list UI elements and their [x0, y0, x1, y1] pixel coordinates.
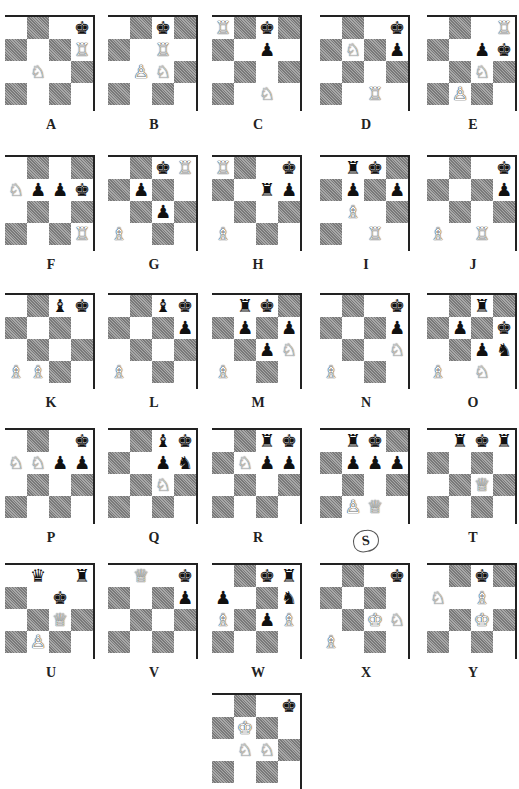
- diagram-label: L: [108, 395, 200, 411]
- board-square: [364, 361, 386, 383]
- board-square: [449, 609, 471, 631]
- board-square: ♟: [256, 452, 278, 474]
- board-square: ♞: [278, 587, 300, 609]
- board-square: [471, 83, 493, 105]
- black-king-icon: ♚: [52, 589, 68, 607]
- chess-diagram-c: ♖♚♟♘C: [212, 15, 304, 133]
- board-square: [174, 61, 196, 83]
- board-square: [152, 609, 174, 631]
- board-square: [449, 496, 471, 518]
- board-square: ♜: [493, 430, 515, 452]
- board-square: [130, 587, 152, 609]
- diagram-label: W: [212, 665, 304, 681]
- diagram-label-text: G: [149, 257, 160, 272]
- board-square: [152, 83, 174, 105]
- board-square: ♟: [256, 39, 278, 61]
- board-square: [27, 223, 49, 245]
- board-square: [278, 474, 300, 496]
- board-square: ♘: [234, 452, 256, 474]
- board-square: [130, 223, 152, 245]
- white-knight-icon: ♘: [259, 741, 275, 759]
- board-square: [256, 474, 278, 496]
- white-knight-icon: ♘: [345, 41, 361, 59]
- white-rook-icon: ♖: [474, 225, 490, 243]
- board-square: ♚: [71, 430, 93, 452]
- board-square: [212, 761, 234, 783]
- board-square: [427, 430, 449, 452]
- board-square: [278, 761, 300, 783]
- white-bishop-icon: ♗: [430, 225, 446, 243]
- chess-board: ♖♚♟♘: [212, 15, 302, 105]
- board-square: [5, 587, 27, 609]
- black-king-icon: ♚: [496, 41, 512, 59]
- chess-diagram-x: ♚♔♘♗X: [320, 563, 412, 681]
- board-square: [130, 295, 152, 317]
- board-square: [49, 83, 71, 105]
- board-square: [130, 474, 152, 496]
- board-square: ♟: [256, 609, 278, 631]
- white-pawn-icon: ♙: [133, 63, 149, 81]
- board-square: [71, 474, 93, 496]
- board-square: [320, 452, 342, 474]
- black-rook-icon: ♜: [259, 181, 275, 199]
- diagram-label: H: [212, 257, 304, 273]
- chess-board: ♛♜♚♕♙: [5, 563, 95, 653]
- diagram-label-text: B: [149, 117, 158, 132]
- black-knight-icon: ♞: [281, 589, 297, 607]
- chess-board: ♘♟♟♚♖: [5, 155, 95, 245]
- board-square: [449, 587, 471, 609]
- diagram-label-text: L: [149, 395, 158, 410]
- chess-board: ♚♟♗♖: [427, 155, 517, 245]
- board-square: [256, 201, 278, 223]
- board-square: ♚: [278, 430, 300, 452]
- board-square: [108, 201, 130, 223]
- diagram-label-text: P: [47, 530, 56, 545]
- board-square: [493, 295, 515, 317]
- board-square: ♘: [386, 609, 408, 631]
- board-square: ♜: [342, 430, 364, 452]
- board-square: [108, 474, 130, 496]
- diagram-label-text: Q: [149, 530, 160, 545]
- board-square: [320, 83, 342, 105]
- board-square: [174, 474, 196, 496]
- diagram-label-text: I: [363, 257, 368, 272]
- chess-board: ♖♚♜♟♗: [212, 155, 302, 245]
- chess-board: ♜♚♟♟♟♙♕: [320, 428, 410, 518]
- board-square: [27, 157, 49, 179]
- board-square: [342, 587, 364, 609]
- board-square: [234, 157, 256, 179]
- chess-board: ♚♖♟♟♗: [108, 155, 198, 245]
- board-square: [234, 179, 256, 201]
- white-bishop-icon: ♗: [323, 633, 339, 651]
- board-square: ♟: [212, 587, 234, 609]
- board-square: ♗: [212, 223, 234, 245]
- board-square: ♘: [427, 587, 449, 609]
- board-square: [212, 61, 234, 83]
- board-square: ♔: [471, 609, 493, 631]
- black-king-icon: ♚: [155, 19, 171, 37]
- board-square: [320, 39, 342, 61]
- diagram-label: Y: [427, 665, 519, 681]
- black-bishop-icon: ♝: [52, 297, 68, 315]
- diagram-label: N: [320, 395, 412, 411]
- diagram-label: U: [5, 665, 97, 681]
- board-square: ♖: [174, 157, 196, 179]
- board-square: [320, 496, 342, 518]
- board-square: [427, 496, 449, 518]
- chess-board: ♚♘♘♟♟: [5, 428, 95, 518]
- board-square: [49, 565, 71, 587]
- chess-board: ♜♟♚♟♞♗♘: [427, 293, 517, 383]
- black-king-icon: ♚: [474, 432, 490, 450]
- black-king-icon: ♚: [474, 567, 490, 585]
- board-square: ♜: [449, 430, 471, 452]
- board-square: [278, 201, 300, 223]
- board-square: [71, 496, 93, 518]
- chess-diagram-y: ♚♘♗♔Y: [427, 563, 519, 681]
- white-rook-icon: ♖: [215, 159, 231, 177]
- board-square: ♜: [278, 565, 300, 587]
- diagram-label: E: [427, 117, 519, 133]
- board-square: [152, 496, 174, 518]
- board-square: ♚: [71, 17, 93, 39]
- board-square: ♟: [278, 179, 300, 201]
- board-square: ♘: [27, 61, 49, 83]
